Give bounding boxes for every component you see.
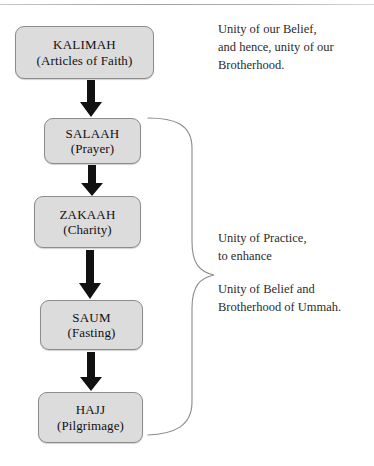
node-kalimah-subtitle: (Articles of Faith) xyxy=(37,53,133,68)
node-salaah-title: SALAAH xyxy=(66,126,120,141)
arrow-saum-to-hajj xyxy=(78,352,104,392)
note-ummah: Unity of Belief and Brotherhood of Ummah… xyxy=(218,280,368,316)
node-saum-title: SAUM xyxy=(72,310,110,325)
node-salaah-subtitle: (Prayer) xyxy=(71,141,114,156)
node-kalimah-title: KALIMAH xyxy=(53,37,116,52)
node-salaah: SALAAH (Prayer) xyxy=(44,118,141,164)
node-kalimah: KALIMAH (Articles of Faith) xyxy=(15,26,154,79)
node-saum: SAUM (Fasting) xyxy=(40,300,143,350)
node-zakaah: ZAKAAH (Charity) xyxy=(34,196,141,248)
pillars-brace xyxy=(146,114,218,440)
arrow-zakaah-to-saum xyxy=(77,250,103,300)
node-hajj-subtitle: (Pilgrimage) xyxy=(57,418,124,433)
note-practice: Unity of Practice, to enhance xyxy=(218,229,368,265)
node-hajj: HAJJ (Pilgrimage) xyxy=(38,392,143,443)
diagram-canvas: KALIMAH (Articles of Faith) SALAAH (Pray… xyxy=(0,0,374,466)
arrow-salaah-to-zakaah xyxy=(79,165,105,197)
arrow-kalimah-to-salaah xyxy=(78,80,104,118)
node-zakaah-title: ZAKAAH xyxy=(59,207,115,222)
node-saum-subtitle: (Fasting) xyxy=(68,325,116,340)
node-hajj-title: HAJJ xyxy=(76,402,106,417)
top-divider xyxy=(0,4,374,5)
node-zakaah-subtitle: (Charity) xyxy=(63,222,112,237)
note-belief: Unity of our Belief, and hence, unity of… xyxy=(218,20,368,74)
